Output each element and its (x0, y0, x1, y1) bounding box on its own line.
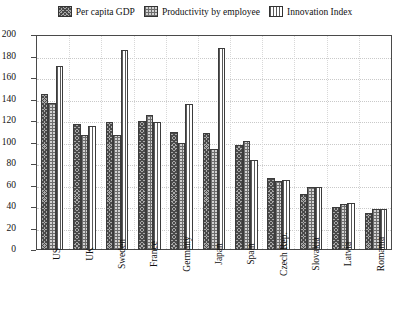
y-tick-label: 160 (0, 73, 16, 83)
x-tick-label: UK (85, 247, 95, 261)
bar (300, 194, 308, 250)
bar (48, 103, 56, 250)
x-label-cell: France (133, 252, 165, 313)
x-tick-label: France (149, 241, 159, 267)
chart-legend: Per capita GDP Productivity by employee … (0, 6, 410, 17)
bar (56, 66, 64, 250)
bar-group (101, 35, 133, 250)
legend-label-per-capita-gdp: Per capita GDP (76, 7, 135, 17)
bar (365, 213, 373, 250)
bar (332, 207, 340, 250)
bar (178, 143, 186, 251)
bar-group (327, 35, 359, 250)
bar (210, 149, 218, 250)
x-label-cell: Slovakia (295, 252, 327, 313)
bar-group (198, 35, 230, 250)
x-label-cell: Latvia (327, 252, 359, 313)
y-tick-label: 80 (0, 159, 16, 169)
bar-groups (36, 35, 392, 250)
x-tick-label: US (52, 248, 62, 260)
bar-group (263, 35, 295, 250)
legend-label-productivity-by-employee: Productivity by employee (162, 7, 260, 17)
bar-group (165, 35, 197, 250)
bar-group (36, 35, 68, 250)
bar (138, 121, 146, 250)
bar (146, 115, 154, 250)
x-tick-label: Germany (182, 236, 192, 271)
bar (153, 122, 161, 250)
x-label-cell: US (36, 252, 68, 313)
y-tick-label: 120 (0, 116, 16, 126)
x-label-cell: Romania (360, 252, 392, 313)
bar-group (360, 35, 392, 250)
legend-item-per-capita-gdp: Per capita GDP (58, 6, 135, 17)
y-tick-mark (31, 250, 36, 251)
bar (73, 124, 81, 250)
x-label-cell: UK (68, 252, 100, 313)
bar (106, 122, 114, 250)
y-tick-label: 0 (0, 245, 16, 255)
x-tick-label: Sweden (117, 239, 127, 269)
bar (243, 141, 251, 250)
bar (218, 48, 226, 250)
bar (81, 135, 89, 250)
y-tick-label: 200 (0, 30, 16, 40)
x-label-cell: Germany (165, 252, 197, 313)
x-label-cell: Japan (198, 252, 230, 313)
x-tick-label: Japan (214, 243, 224, 265)
y-tick-label: 140 (0, 95, 16, 105)
legend-item-innovation-index: Innovation Index (269, 6, 352, 17)
bar (203, 133, 211, 250)
x-tick-label: Latvia (343, 242, 353, 266)
y-tick-label: 180 (0, 52, 16, 62)
bar (41, 94, 49, 250)
bar (250, 160, 258, 250)
x-tick-label: Romania (376, 237, 386, 271)
legend-label-innovation-index: Innovation Index (287, 7, 352, 17)
y-tick-label: 20 (0, 224, 16, 234)
bar-group (230, 35, 262, 250)
bar (267, 178, 275, 250)
x-label-cell: Czech Rep. (263, 252, 295, 313)
legend-swatch-icon-per-capita-gdp (58, 6, 72, 17)
y-tick-label: 100 (0, 138, 16, 148)
bar (235, 145, 243, 250)
legend-swatch-icon-productivity-by-employee (144, 6, 158, 17)
bar (185, 104, 193, 250)
bar-group (295, 35, 327, 250)
y-tick-label: 60 (0, 181, 16, 191)
bar (170, 132, 178, 250)
bar (88, 126, 96, 250)
y-tick-label: 40 (0, 202, 16, 212)
bar (113, 135, 121, 250)
bar (121, 50, 129, 250)
bar-group (133, 35, 165, 250)
x-label-cell: Sweden (101, 252, 133, 313)
x-tick-label: Slovakia (311, 237, 321, 270)
legend-swatch-icon-innovation-index (269, 6, 283, 17)
x-tick-label: Spain (246, 243, 256, 265)
x-tick-label: Czech Rep. (279, 232, 289, 276)
x-axis-labels: USUKSwedenFranceGermanyJapanSpainCzech R… (36, 252, 392, 313)
bar-chart: Per capita GDP Productivity by employee … (0, 0, 410, 313)
bar-group (68, 35, 100, 250)
x-label-cell: Spain (230, 252, 262, 313)
legend-item-productivity-by-employee: Productivity by employee (144, 6, 260, 17)
